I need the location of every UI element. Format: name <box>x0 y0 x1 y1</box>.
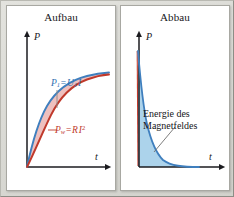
y-axis-label-aufbau: P <box>34 32 40 43</box>
equation-total-power: P1 = U1 I <box>51 79 81 89</box>
figure-container: Aufbau P <box>0 0 234 197</box>
equation-resistive-power: Pw = R I2 <box>55 125 85 136</box>
equation-resistive-power-text: Pw = R I2 <box>55 125 85 135</box>
x-axis-label-aufbau: t <box>95 152 98 163</box>
panel-aufbau: Aufbau P <box>6 5 116 191</box>
annotation-line-2: Magnetfeldes <box>143 120 197 132</box>
panel-abbau: Abbau P t <box>120 5 230 191</box>
y-axis-label-abbau: P <box>146 32 152 43</box>
x-axis-label-abbau: t <box>209 152 212 163</box>
curve-residual-red <box>137 51 138 166</box>
annotation-line-1: Energie des <box>143 108 197 120</box>
equation-total-power-text: P1 = U1 I <box>51 78 81 88</box>
annotation-magnetic-energy: Energie des Magnetfeldes <box>143 108 197 132</box>
plot-abbau <box>121 6 231 192</box>
plot-aufbau <box>7 6 117 192</box>
